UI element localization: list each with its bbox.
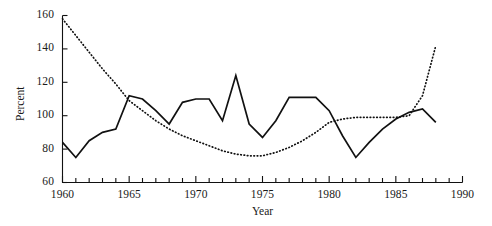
y-tick-label-80: 80 <box>10 142 54 154</box>
x-tick-label-1965: 1965 <box>99 188 159 200</box>
chart-figure: 6080100120140160196019651970197519801985… <box>0 0 492 226</box>
y-tick-label-160: 160 <box>10 8 54 20</box>
y-tick-label-60: 60 <box>10 175 54 187</box>
x-tick-label-1990: 1990 <box>433 188 492 200</box>
x-tick-label-1985: 1985 <box>366 188 426 200</box>
x-tick-label-1960: 1960 <box>33 188 93 200</box>
y-axis-title: Percent <box>14 87 26 121</box>
x-tick-label-1970: 1970 <box>166 188 226 200</box>
x-tick-label-1975: 1975 <box>233 188 293 200</box>
x-tick-label-1980: 1980 <box>299 188 359 200</box>
series-dotted <box>63 19 436 156</box>
y-tick-label-120: 120 <box>10 75 54 87</box>
axis-frame <box>63 16 463 183</box>
x-axis-title: Year <box>203 205 323 217</box>
y-tick-label-140: 140 <box>10 41 54 53</box>
